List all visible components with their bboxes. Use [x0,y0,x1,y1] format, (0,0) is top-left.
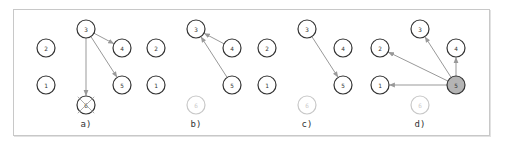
node-5: 5 [334,76,352,94]
node-label: 1 [265,82,269,89]
node-label: 1 [154,82,158,89]
node-label: 2 [44,45,48,52]
node-label: 5 [341,82,345,89]
panel-c: 123456 [258,20,352,114]
node-6: 6 [411,96,429,114]
node-4: 4 [334,39,352,57]
node-2: 2 [37,39,55,57]
node-3: 3 [77,20,95,38]
node-3: 3 [298,20,316,38]
node-label: 6 [305,102,309,109]
node-1: 1 [258,76,276,94]
panel-label: c) [302,119,313,129]
edge-5-to-2 [389,52,448,81]
node-3: 3 [411,20,429,38]
node-3: 3 [187,20,205,38]
edge-4-to-3 [204,33,224,43]
node-5: 5 [223,76,241,94]
node-label: 3 [305,26,309,33]
node-5: 5 [447,76,465,94]
node-2: 2 [371,39,389,57]
edge-3-to-5 [312,37,338,77]
node-4: 4 [113,39,131,57]
node-label: 1 [378,82,382,89]
nodes-layer: 123456123456123456123456 [37,20,465,114]
node-label: 5 [454,82,458,89]
node-label: 4 [454,45,458,52]
panel-label: a) [81,119,92,129]
node-1: 1 [37,76,55,94]
panel-a: 123456 [37,20,131,114]
node-label: 5 [120,82,124,89]
node-6: 6 [298,96,316,114]
panel-b: 123456 [147,20,241,114]
node-label: 2 [265,45,269,52]
edge-3-to-4 [94,33,114,43]
panel-label: b) [191,119,202,129]
node-label: 4 [341,45,345,52]
node-1: 1 [147,76,165,94]
node-1: 1 [371,76,389,94]
panel-labels-layer: a)b)c)d) [81,119,426,129]
node-label: 3 [194,26,198,33]
node-2: 2 [258,39,276,57]
node-label: 1 [44,82,48,89]
panel-label: d) [415,119,426,129]
graph-diagram: 123456123456123456123456 a)b)c)d) [0,0,505,146]
node-label: 2 [378,45,382,52]
node-5: 5 [113,76,131,94]
node-label: 3 [84,26,88,33]
node-label: 2 [154,45,158,52]
node-label: 3 [418,26,422,33]
node-label: 6 [194,102,198,109]
node-4: 4 [223,39,241,57]
node-6: 6 [187,96,205,114]
node-label: 6 [418,102,422,109]
edge-3-to-5 [91,37,117,77]
node-6: 6 [77,96,95,114]
node-4: 4 [447,39,465,57]
node-label: 5 [230,82,234,89]
node-2: 2 [147,39,165,57]
node-label: 4 [120,45,124,52]
node-label: 4 [230,45,234,52]
